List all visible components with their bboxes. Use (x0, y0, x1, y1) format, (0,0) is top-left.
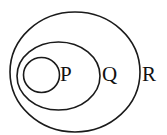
set-p-label: P (60, 62, 72, 86)
set-r-label: R (142, 62, 156, 86)
set-q-ellipse (17, 42, 100, 110)
nested-sets-diagram: P Q R (0, 0, 167, 135)
set-q-label: Q (102, 62, 117, 86)
set-r-ellipse (10, 12, 140, 132)
set-p-ellipse (24, 58, 60, 93)
